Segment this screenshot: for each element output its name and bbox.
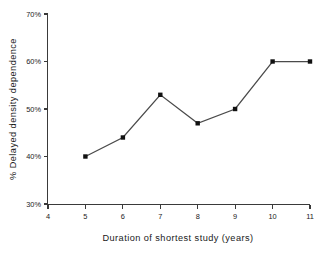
data-point-marker	[196, 121, 200, 125]
y-tick-label: 50%	[26, 105, 41, 114]
data-point-marker	[270, 59, 274, 63]
x-tick-label: 6	[121, 212, 125, 221]
y-tick-label: 40%	[26, 152, 41, 161]
data-point-marker	[233, 107, 237, 111]
y-tick-label: 30%	[26, 200, 41, 209]
x-tick-label: 11	[306, 212, 314, 221]
chart-figure: 70% 60% 50% 40% 30% 4 5 6 7 8 9 10 11	[0, 0, 326, 257]
line-chart: 70% 60% 50% 40% 30% 4 5 6 7 8 9 10 11	[0, 0, 326, 257]
y-tick-label: 70%	[26, 10, 41, 19]
x-tick-label: 7	[158, 212, 162, 221]
y-tick-label: 60%	[26, 57, 41, 66]
data-point-marker	[83, 154, 87, 158]
x-tick-label: 4	[46, 212, 50, 221]
x-tick-label: 8	[196, 212, 200, 221]
x-tick-label: 5	[83, 212, 87, 221]
x-axis-title: Duration of shortest study (years)	[102, 233, 253, 243]
data-point-marker	[308, 59, 312, 63]
data-point-marker	[158, 93, 162, 97]
data-point-marker	[121, 135, 125, 139]
y-axis-title: % Delayed density dependence	[8, 38, 18, 180]
x-tick-label: 10	[268, 212, 276, 221]
x-tick-label: 9	[233, 212, 237, 221]
